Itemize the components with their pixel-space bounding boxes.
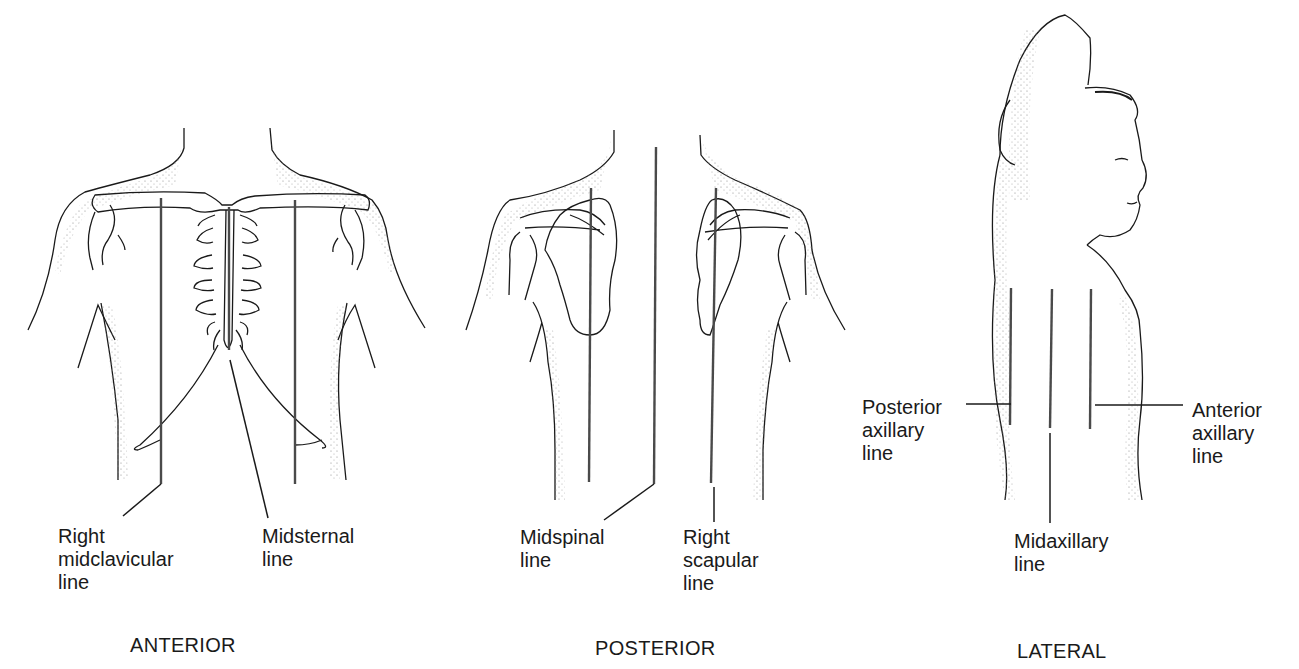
posterior-leaders [604, 484, 714, 522]
label-right-scapular-line: Right scapular line [683, 526, 759, 595]
lateral-reference-lines [1010, 288, 1091, 429]
label-posterior-axillary-line: Posterior axillary line [862, 396, 942, 465]
anterior-reference-lines [161, 198, 295, 484]
anterior-axillary-line [1090, 289, 1091, 429]
label-right-midclavicular-line: Right midclavicular line [58, 525, 174, 594]
label-midspinal-line: Midspinal line [520, 526, 604, 572]
caption-posterior: POSTERIOR [595, 637, 716, 660]
label-anterior-axillary-line: Anterior axillary line [1192, 399, 1262, 468]
midspinal-line [654, 147, 656, 484]
midaxillary-line [1050, 289, 1052, 428]
lateral-figure [992, 15, 1146, 500]
caption-lateral: LATERAL [1017, 640, 1107, 663]
right-scapular-line [711, 188, 716, 483]
label-midsternal-line: Midsternal line [262, 525, 354, 571]
anterior-figure [28, 128, 425, 480]
caption-anterior: ANTERIOR [130, 634, 236, 657]
left-scapular-line [589, 188, 591, 482]
label-midaxillary-line: Midaxillary line [1014, 530, 1108, 576]
